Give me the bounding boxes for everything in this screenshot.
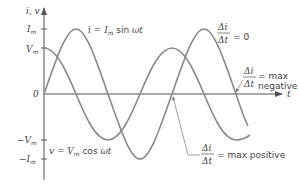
tick-label-neg-vm: −Vm	[17, 135, 37, 146]
svg-text:Δi: Δi	[243, 66, 253, 76]
svg-text:negative: negative	[258, 81, 298, 91]
annotation-zero-slope: Δi Δt = 0	[217, 22, 249, 45]
svg-text:Δi: Δi	[217, 22, 227, 32]
svg-text:Δi: Δi	[201, 143, 211, 153]
annotation-max-positive: Δi Δt = max positive	[173, 97, 286, 166]
origin-label: 0	[33, 89, 39, 99]
sinusoid-diagram: i, v t 0 Im Vm −Vm −Im i = Im sin ωt v =…	[0, 0, 299, 186]
svg-text:Δt: Δt	[201, 156, 212, 166]
svg-text:= max positive: = max positive	[217, 150, 286, 160]
svg-text:Δt: Δt	[217, 35, 228, 45]
voltage-equation-label: v = Vm cos ωt	[49, 146, 112, 157]
annotation-max-negative: Δi Δt = max negative	[236, 66, 298, 92]
y-axis-label: i, v	[26, 6, 40, 16]
current-equation-label: i = Im sin ωt	[88, 25, 143, 36]
svg-text:= max: = max	[258, 71, 289, 81]
tick-label-neg-im: −Im	[19, 154, 36, 165]
tick-label-im: Im	[26, 24, 37, 35]
svg-text:Δt: Δt	[243, 79, 254, 89]
tick-label-vm: Vm	[26, 44, 39, 55]
svg-text:= 0: = 0	[233, 32, 249, 42]
